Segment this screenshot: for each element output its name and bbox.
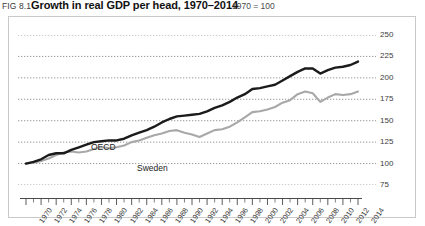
x-axis-tick-2014: 2014 [369,206,386,225]
x-axis-tick-1970: 1970 [37,206,54,225]
x-axis-tick-2010: 2010 [339,206,356,225]
y-axis-tick-175: 175 [380,94,393,103]
y-axis-tick-250: 250 [380,30,393,39]
series-line-oecd [26,62,358,164]
x-axis-tick-labels: 1970197219741976197819801982198419861988… [9,206,425,226]
y-axis-tick-200: 200 [380,73,393,82]
x-axis-tick-2000: 2000 [263,206,280,225]
y-axis-tick-225: 225 [380,51,393,60]
x-axis-tick-1990: 1990 [188,206,205,225]
x-axis-tick-2008: 2008 [324,206,341,225]
x-axis-tick-1998: 1998 [248,206,265,225]
x-axis-tick-2006: 2006 [309,206,326,225]
x-axis-tick-2002: 2002 [279,206,296,225]
series-line-sweden [26,92,358,164]
x-axis-tick-1988: 1988 [173,206,190,225]
x-axis-tick-1972: 1972 [52,206,69,225]
x-axis-tick-2004: 2004 [294,206,311,225]
x-axis-tick-1978: 1978 [97,206,114,225]
y-axis-tick-125: 125 [380,137,393,146]
line-chart-svg [18,35,414,185]
series-label-oecd: OECD [91,142,116,152]
y-axis-tick-150: 150 [380,116,393,125]
x-axis-tick-1994: 1994 [218,206,235,225]
figure-units-note: 1970 = 100 [232,1,275,11]
x-axis-tick-1992: 1992 [203,206,220,225]
plot-area [18,35,414,185]
series-label-sweden: Sweden [137,163,168,173]
chart-panel: 25022520017515012510075 OECD Sweden 1970… [8,16,416,218]
x-axis-tick-1982: 1982 [128,206,145,225]
y-axis-tick-100: 100 [380,159,393,168]
figure-number: FIG 8.1 [2,1,31,11]
x-axis-tick-1996: 1996 [233,206,250,225]
x-axis-tick-1984: 1984 [143,206,160,225]
x-axis-svg [18,198,414,206]
figure-title-bar: FIG 8.1 Growth in real GDP per head, 197… [0,0,425,15]
x-axis-tick-2012: 2012 [354,206,371,225]
x-axis-tick-1974: 1974 [67,206,84,225]
x-axis-tick-1976: 1976 [82,206,99,225]
x-axis-tick-1980: 1980 [113,206,130,225]
x-axis-tick-1986: 1986 [158,206,175,225]
x-axis [18,198,414,206]
y-axis-tick-75: 75 [380,180,389,189]
gridlines [18,35,376,185]
page-title: Growth in real GDP per head, 1970–2014 [31,0,238,11]
